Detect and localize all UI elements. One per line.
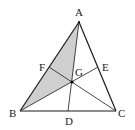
point-g xyxy=(70,80,73,83)
label-b: B xyxy=(9,107,16,119)
label-e: E xyxy=(102,61,109,73)
label-f: F xyxy=(39,61,45,73)
point-a xyxy=(78,21,80,23)
label-d: D xyxy=(65,115,73,127)
triangle-diagram: A B C D E F G xyxy=(0,0,135,130)
label-g: G xyxy=(75,66,83,78)
label-c: C xyxy=(118,107,125,119)
label-a: A xyxy=(75,6,83,18)
side-ca xyxy=(79,22,116,111)
